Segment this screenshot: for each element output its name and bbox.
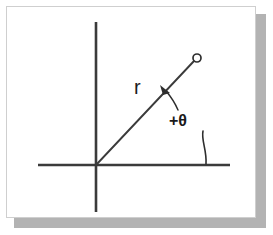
angle-label: +θ (169, 113, 187, 129)
angle-leader-line (166, 91, 178, 110)
x-axis-angle-tick (203, 131, 207, 164)
radius-label: r (134, 77, 141, 97)
figure-root: r +θ (0, 0, 273, 235)
diagram-svg (0, 0, 273, 235)
diagram-canvas: r +θ (0, 0, 273, 235)
terminal-point-marker (193, 54, 201, 62)
